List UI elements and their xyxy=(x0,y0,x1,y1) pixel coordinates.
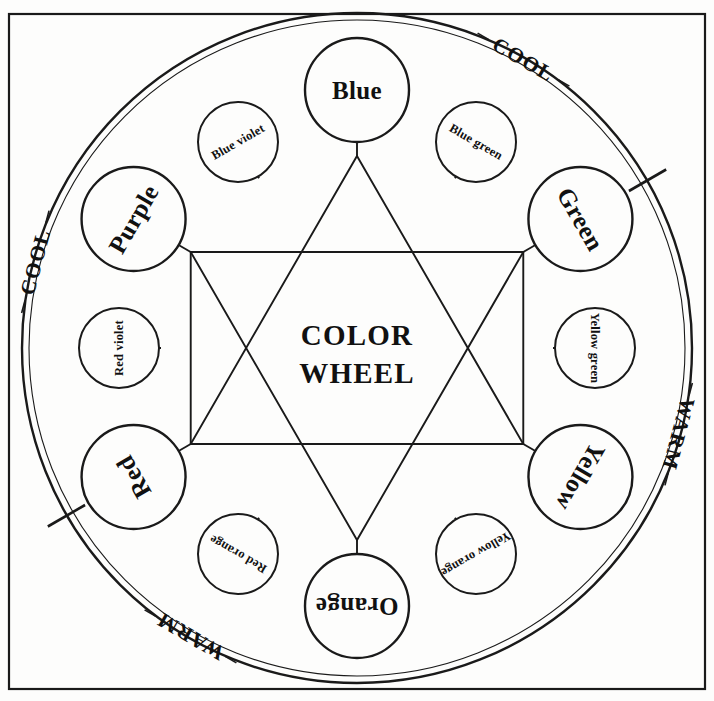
node-blue-green[interactable]: Blue green xyxy=(436,102,516,182)
node-blue-violet[interactable]: Blue violet xyxy=(198,102,278,182)
center-title-line-1: COLOR xyxy=(301,319,413,351)
node-label-red-violet: Red violet xyxy=(112,319,126,375)
node-blue[interactable]: Blue xyxy=(305,38,409,142)
node-red[interactable]: Red xyxy=(82,425,186,529)
vertex-stem-red xyxy=(179,444,191,451)
node-orange[interactable]: Orange xyxy=(305,554,409,658)
temperature-text: WARM xyxy=(657,395,699,473)
temperature-label-warm-2: WARM xyxy=(657,383,699,485)
node-yellow[interactable]: Yellow xyxy=(528,425,632,529)
node-label-orange: Orange xyxy=(316,593,399,620)
temperature-label-warm-3: WARM xyxy=(145,607,237,665)
color-wheel-svg: BlueGreenYellowOrangeRedPurpleBlue green… xyxy=(0,0,714,701)
node-red-orange[interactable]: Red orange xyxy=(198,514,278,594)
center-title: COLORWHEEL xyxy=(299,319,415,389)
node-label-blue: Blue xyxy=(332,77,382,104)
temperature-text: COOL xyxy=(15,226,56,297)
temperature-text: WARM xyxy=(152,607,228,665)
temperature-label-cool-1: COOL xyxy=(15,211,56,313)
center-title-line-2: WHEEL xyxy=(299,357,415,389)
node-red-violet[interactable]: Red violet xyxy=(79,308,159,388)
primary-triad-triangle xyxy=(191,156,524,444)
vertex-stem-yellow xyxy=(523,444,535,451)
vertex-stem-green xyxy=(523,245,535,252)
node-purple[interactable]: Purple xyxy=(82,167,186,271)
node-yellow-green[interactable]: Yellow green xyxy=(555,308,635,388)
vertex-stem-purple xyxy=(179,245,191,252)
node-label-yellow-green: Yellow green xyxy=(588,313,602,384)
secondary-triad-triangle xyxy=(191,252,524,540)
color-wheel-figure: BlueGreenYellowOrangeRedPurpleBlue green… xyxy=(0,0,714,701)
node-yellow-orange[interactable]: Yellow orange xyxy=(436,514,516,594)
node-green[interactable]: Green xyxy=(528,167,632,271)
temperature-text: COOL xyxy=(488,32,558,87)
